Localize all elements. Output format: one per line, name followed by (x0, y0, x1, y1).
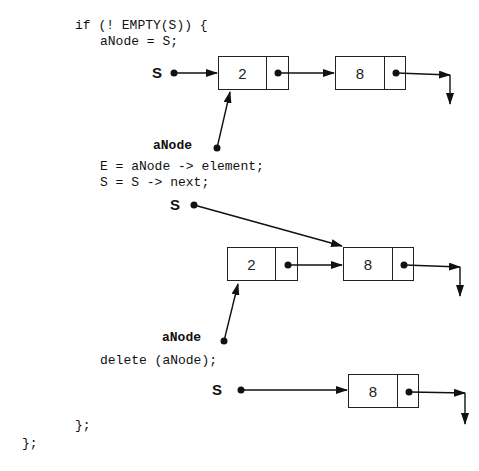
list-node-stage2-2: 8 (343, 247, 414, 281)
pointer-dots (171, 70, 413, 396)
code-next-line: S = S -> next; (100, 175, 209, 190)
node-value: 8 (336, 57, 385, 89)
node-value: 8 (349, 375, 398, 407)
code-close-inner: }; (75, 418, 91, 433)
node-next-field (385, 57, 405, 89)
code-assign-line: aNode = S; (100, 34, 178, 49)
node-next-field (276, 248, 297, 280)
list-node-stage2-1: 2 (227, 247, 298, 281)
anode-pointer-label-stage1: aNode (153, 138, 192, 153)
list-node-stage1-2: 8 (335, 56, 406, 90)
node-value: 8 (344, 248, 393, 280)
node-next-field (393, 248, 413, 280)
list-node-stage1-1: 2 (218, 56, 289, 90)
anode-pointer-label-stage2: aNode (162, 330, 201, 345)
code-close-outer: }; (22, 436, 38, 451)
s-pointer-label-stage2: S (170, 196, 180, 213)
s-to-node-arrow (194, 205, 342, 246)
node-next-field (398, 375, 418, 407)
list-node-stage3-1: 8 (348, 374, 419, 408)
node-value: 2 (228, 248, 276, 280)
code-element-line: E = aNode -> element; (100, 159, 264, 174)
code-delete-line: delete (aNode); (100, 353, 217, 368)
node-value: 2 (219, 57, 267, 89)
anode-to-node-arrow (224, 284, 238, 341)
code-if-line: if (! EMPTY(S)) { (75, 18, 208, 33)
anode-to-node-arrow (217, 92, 230, 148)
s-pointer-label-stage1: S (152, 64, 162, 81)
s-pointer-label-stage3: S (212, 381, 222, 398)
node-next-field (267, 57, 288, 89)
